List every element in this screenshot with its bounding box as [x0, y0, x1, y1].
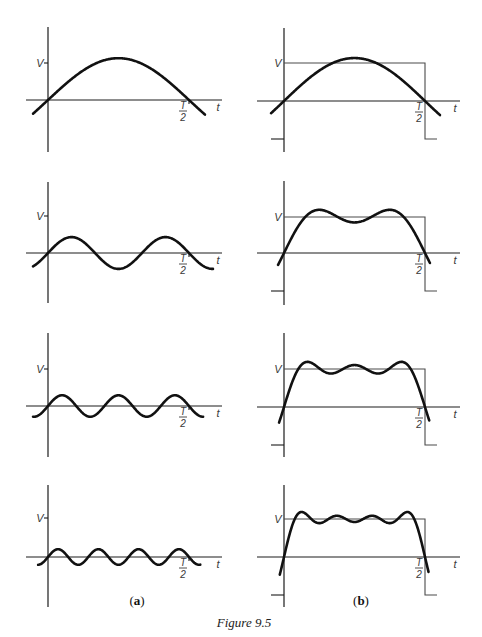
half-period-denominator: 2: [415, 265, 422, 276]
half-period-numerator: T: [180, 406, 187, 417]
half-period-denominator: 2: [179, 265, 186, 276]
t-label: t: [216, 254, 220, 266]
t-label: t: [216, 558, 220, 570]
panel-b4: V T 2 t: [257, 485, 460, 607]
half-period-numerator: T: [416, 253, 423, 264]
v-label: V: [36, 512, 45, 524]
v-label: V: [36, 363, 45, 375]
v-label: V: [274, 363, 283, 375]
half-period-numerator: T: [416, 101, 423, 112]
half-period-denominator: 2: [179, 418, 186, 429]
figure-caption: Figure 9.5: [216, 615, 272, 630]
panel-b3: V T 2 t: [257, 333, 460, 457]
half-period-denominator: 2: [179, 112, 186, 123]
half-period-numerator: T: [416, 407, 423, 418]
panel-b1: V T 2 t: [257, 28, 460, 152]
v-label: V: [274, 57, 283, 69]
figure-9-5: V T 2 t V T 2 t V T 2 t V T: [0, 0, 482, 637]
panel-a1: V T 2 t: [26, 27, 222, 152]
half-period-denominator: 2: [415, 419, 422, 430]
v-label: V: [36, 210, 45, 222]
column-label-a: (a): [129, 593, 144, 608]
t-label: t: [453, 102, 457, 114]
panel-a4: V T 2 t: [26, 485, 222, 607]
column-label-b: (b): [353, 593, 369, 608]
t-label: t: [453, 558, 457, 570]
half-period-denominator: 2: [415, 113, 422, 124]
half-period-numerator: T: [416, 557, 423, 568]
fourier-sum-curve: [279, 362, 429, 423]
panel-a2: V T 2 t: [26, 182, 222, 303]
half-period-numerator: T: [180, 100, 187, 111]
t-label: t: [216, 101, 220, 113]
t-label: t: [453, 254, 457, 266]
t-label: t: [216, 407, 220, 419]
half-period-denominator: 2: [179, 569, 186, 580]
half-period-denominator: 2: [415, 569, 422, 580]
square-wave: [284, 217, 437, 291]
fourier-sum-curve: [280, 512, 429, 575]
v-label: V: [274, 211, 283, 223]
t-label: t: [453, 408, 457, 420]
half-period-numerator: T: [180, 557, 187, 568]
panel-b2: V T 2 t: [257, 181, 460, 305]
v-label: V: [36, 57, 45, 69]
panel-a3: V T 2 t: [26, 333, 222, 457]
fourier-sum-curve: [278, 210, 430, 265]
v-label: V: [274, 513, 283, 525]
half-period-numerator: T: [180, 253, 187, 264]
fourier-sum-curve: [271, 58, 440, 115]
